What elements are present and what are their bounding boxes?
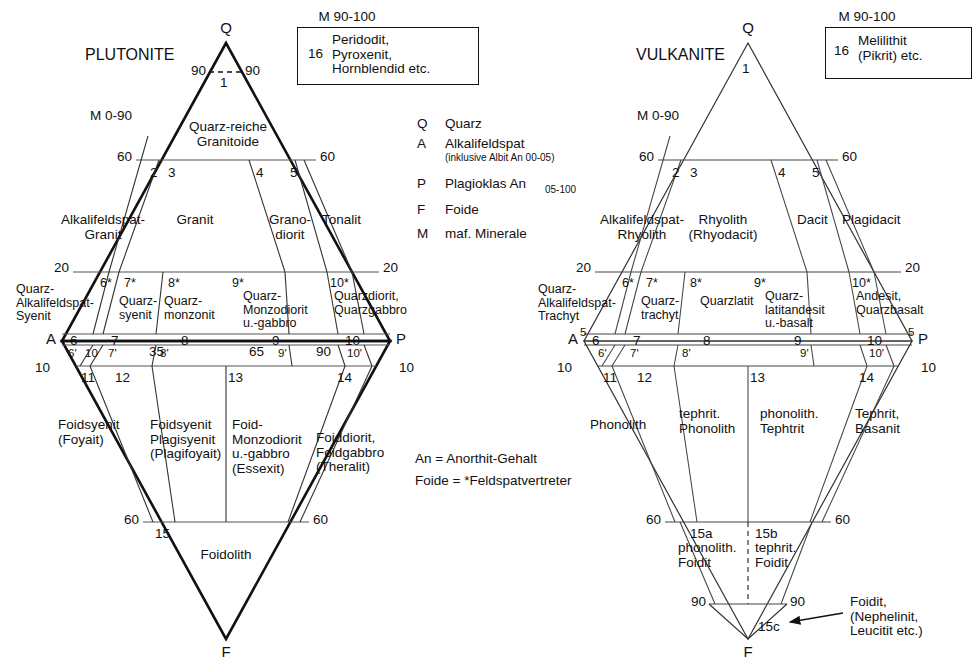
left-tick-60-right: 60 — [320, 150, 335, 165]
legend-key-q: Q — [417, 117, 428, 132]
right-tick-10-right: 10 — [921, 361, 936, 376]
left-field-num-2: 2 — [150, 166, 158, 181]
right-field-name-13: phonolith. Tephtrit — [760, 407, 819, 436]
left-field-num-8s: 8* — [168, 277, 180, 291]
left-tick-q90-left: 90 — [191, 64, 206, 79]
right-tick-p5: 5 — [908, 326, 914, 338]
right-field-num-10p: 10' — [869, 347, 884, 359]
right-field-name-14: Tephrit, Basanit — [855, 407, 900, 436]
left-box-text: Peridodit, Pyroxenit, Hornblendid etc. — [332, 33, 430, 77]
right-tick-60-left: 60 — [639, 150, 654, 165]
left-field-name-15: Foidolith — [200, 548, 251, 563]
right-tick-60lower-right: 60 — [835, 513, 850, 528]
left-field-name-6s: Quarz- Alkalifeldspat- Syenit — [16, 283, 94, 324]
right-field-num-2: 2 — [672, 166, 680, 181]
left-field-num-8p: 8' — [160, 347, 169, 359]
right-m-top-label: M 90-100 — [838, 10, 895, 25]
legend-text-a: Alkalifeldspat — [445, 137, 525, 152]
left-field-num-3: 3 — [168, 166, 176, 181]
right-tick-60lower-left: 60 — [646, 513, 661, 528]
right-field-num-5: 5 — [812, 166, 820, 181]
left-field-num-11: 11 — [81, 371, 95, 386]
left-field-num-10p: 10' — [347, 347, 362, 359]
right-field-name-5: Plagidacit — [842, 213, 901, 228]
left-tick-60lower-right: 60 — [313, 513, 328, 528]
legend-text-m: maf. Minerale — [445, 227, 527, 242]
legend-key-a: A — [417, 137, 426, 152]
left-diagram-title: PLUTONITE — [85, 46, 175, 63]
right-field-name-15a: phonolith. Foidit — [678, 541, 737, 570]
right-field-num-13: 13 — [750, 371, 765, 386]
right-tick-10-left: 10 — [557, 361, 572, 376]
left-field-num-5: 5 — [290, 166, 298, 181]
left-tick-20-left: 20 — [54, 261, 69, 276]
right-field-num-7p: 7' — [630, 347, 639, 359]
left-tick-60lower-left: 60 — [124, 513, 139, 528]
legend-text-q: Quarz — [445, 117, 482, 132]
left-m-top-label: M 90-100 — [318, 10, 375, 25]
right-tick-90-right: 90 — [790, 595, 805, 610]
right-field-name-10s: Andesit, Quarzbasalt — [856, 290, 923, 317]
right-vertex-q: Q — [742, 20, 754, 36]
right-field-num-6s: 6* — [622, 277, 634, 291]
left-field-name-4: Grano- diorit — [269, 213, 311, 242]
left-field-name-3: Granit — [177, 213, 214, 228]
left-field-name-10s: Quarzdiorit, Quarzgabbro — [334, 290, 407, 317]
right-field-name-11: Phonolith — [590, 418, 646, 433]
left-tick-ap-65: 65 — [249, 345, 264, 360]
legend-note-an: An = Anorthit-Gehalt — [415, 452, 537, 467]
diagram-canvas — [0, 0, 977, 670]
left-tick-ap-90: 90 — [316, 345, 331, 360]
left-field-num-7p: 7' — [108, 347, 117, 359]
legend-sub-p: 05-100 — [545, 185, 576, 196]
left-field-name-quarzreiche: Quarz-reiche Granitoide — [189, 120, 267, 149]
qapf-diagram-figure: PLUTONITE M 90-100 M 0-90 16 Peridodit, … — [0, 0, 977, 670]
left-m-mid-label: M 0-90 — [90, 109, 132, 124]
legend-text-p: Plagioklas An — [445, 177, 526, 192]
left-field-num-12: 12 — [115, 371, 130, 386]
left-tick-q90-right: 90 — [245, 64, 260, 79]
left-field-num-7s: 7* — [124, 277, 136, 291]
legend-sub-a: (inklusive Albit An 00-05) — [445, 153, 555, 164]
left-field-num-14: 14 — [337, 371, 352, 386]
right-field-num-11: 11 — [603, 371, 617, 386]
left-field-name-14: Foiddiorit, Foidgabbro (Theralit) — [316, 431, 384, 475]
right-field-name-15c: Foidit, (Nephelinit, Leucitit etc.) — [850, 595, 923, 639]
right-tick-a5: 5 — [580, 326, 586, 338]
right-field-num-14: 14 — [859, 371, 874, 386]
right-tick-20-left: 20 — [576, 261, 591, 276]
right-field-name-7s: Quarz- trachyt — [641, 295, 679, 322]
right-tick-60-right: 60 — [842, 150, 857, 165]
right-field-num-8s: 8* — [690, 277, 702, 291]
right-field-num-12: 12 — [637, 371, 652, 386]
right-field-num-4: 4 — [778, 166, 786, 181]
right-vertex-f: F — [743, 644, 752, 660]
left-field-name-9s: Quarz- Monzodiorit u.-gabbro — [243, 290, 308, 331]
left-field-num-15: 15 — [155, 527, 170, 542]
left-field-num-9p: 9' — [278, 347, 287, 359]
right-field-name-4: Dacit — [797, 213, 828, 228]
right-tick-20-right: 20 — [905, 261, 920, 276]
right-tick-90-left: 90 — [691, 595, 706, 610]
left-field-name-11: Foidsyenit (Foyait) — [58, 418, 120, 447]
right-field-num-8p: 8' — [682, 347, 691, 359]
left-box-number: 16 — [308, 47, 323, 62]
right-vertex-a: A — [568, 331, 578, 347]
right-field-name-8s: Quarzlatit — [700, 295, 754, 309]
left-vertex-a: A — [46, 331, 56, 347]
left-field-name-13: Foid- Monzodiorit u.-gabbro (Essexit) — [232, 418, 302, 476]
legend-key-f: F — [417, 203, 425, 218]
right-m-mid-label: M 0-90 — [637, 109, 679, 124]
left-vertex-q: Q — [220, 20, 232, 36]
left-field-num-6s: 6* — [100, 277, 112, 291]
left-field-num-13: 13 — [228, 371, 243, 386]
right-diagram-title: VULKANITE — [636, 46, 725, 63]
legend-key-p: P — [417, 177, 426, 192]
left-field-num-8: 8 — [181, 334, 189, 349]
left-field-num-4: 4 — [256, 166, 264, 181]
left-field-num-1: 1 — [220, 76, 228, 91]
right-box-number: 16 — [834, 44, 849, 59]
right-field-name-12: tephrit. Phonolith — [679, 407, 735, 436]
right-field-name-6s: Quarz- Alkalifeldspat- Trachyt — [538, 283, 616, 324]
left-tick-20-right: 20 — [383, 261, 398, 276]
